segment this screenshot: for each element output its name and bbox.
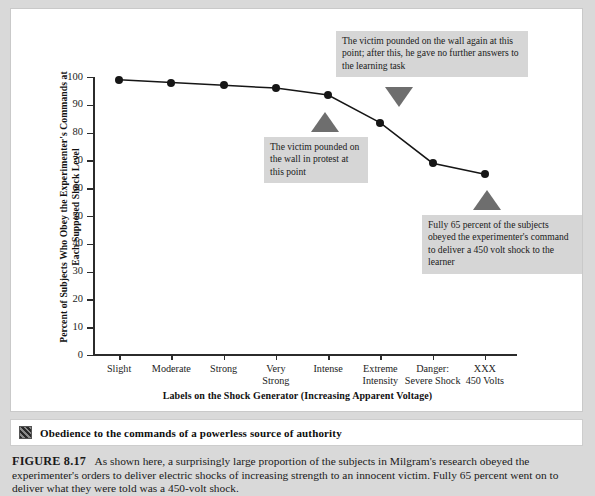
data-point [115, 76, 123, 84]
data-point [220, 81, 228, 89]
data-point [167, 79, 175, 87]
x-axis-title: Labels on the Shock Generator (Increasin… [11, 390, 584, 401]
figure-caption-label: FIGURE 8.17 [12, 454, 86, 468]
section-banner: Obedience to the commands of a powerless… [10, 419, 583, 446]
line-chart: 0102030405060708090100 SlightModerateStr… [11, 9, 584, 413]
data-point [272, 84, 280, 92]
pointer-up-icon [311, 112, 339, 132]
annotation-intense: The victim pounded on the wall in protes… [264, 137, 368, 183]
pointer-up-icon [473, 190, 501, 210]
pointer-down-icon [385, 87, 413, 107]
figure-caption-text: As shown here, a surprisingly large prop… [12, 455, 558, 494]
pixel-thumbnail-icon [19, 426, 32, 439]
data-point [429, 159, 437, 167]
y-axis-title: Percent of Subjects Who Obey the Experim… [58, 62, 82, 352]
annotation-xxx: Fully 65 percent of the subjects obeyed … [422, 215, 582, 274]
annotation-extreme-intensity: The victim pounded on the wall again at … [336, 31, 528, 77]
banner-title: Obedience to the commands of a powerless… [40, 427, 342, 439]
figure-panel: 0102030405060708090100 SlightModerateStr… [10, 8, 583, 412]
figure-caption: FIGURE 8.17 As shown here, a surprisingl… [12, 455, 578, 496]
scanned-page: 0102030405060708090100 SlightModerateStr… [0, 0, 595, 496]
